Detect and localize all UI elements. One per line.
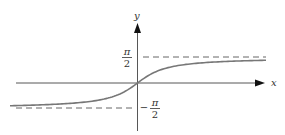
x-axis-arrow-icon xyxy=(255,80,265,87)
lower-label-numerator: π xyxy=(151,97,159,108)
lower-label-denominator: 2 xyxy=(152,109,158,120)
y-axis-label: y xyxy=(133,10,140,21)
lower-label-sign: − xyxy=(140,102,148,113)
x-axis-label: x xyxy=(271,77,277,88)
upper-label-numerator: π xyxy=(123,46,131,57)
y-axis-arrow-icon xyxy=(134,23,141,33)
arctan-graph: y x π 2 − π 2 xyxy=(0,0,285,135)
upper-label-denominator: 2 xyxy=(124,58,130,69)
graph-canvas: y x π 2 − π 2 xyxy=(0,0,285,135)
